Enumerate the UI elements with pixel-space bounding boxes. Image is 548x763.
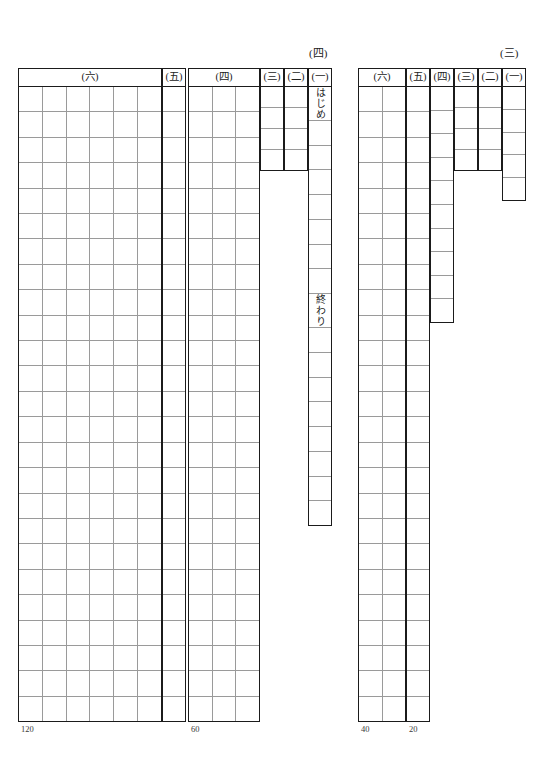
answer-cell[interactable] — [138, 697, 161, 721]
answer-cell[interactable] — [19, 366, 42, 391]
answer-cell[interactable] — [236, 265, 259, 290]
answer-cell[interactable] — [163, 189, 185, 214]
answer-cell[interactable] — [236, 697, 259, 721]
answer-cell[interactable] — [138, 341, 161, 366]
answer-cell[interactable] — [19, 697, 42, 721]
answer-cell[interactable] — [261, 108, 283, 129]
answer-group-g4-4[interactable]: (四) — [188, 68, 260, 722]
answer-cell[interactable] — [43, 468, 66, 493]
answer-cell[interactable] — [19, 519, 42, 544]
answer-cell[interactable] — [43, 341, 66, 366]
writing-column[interactable] — [89, 87, 113, 721]
answer-cell[interactable] — [189, 112, 212, 137]
answer-cell[interactable] — [138, 595, 161, 620]
answer-group-g3-6[interactable]: (六) — [358, 68, 406, 722]
answer-cell[interactable] — [138, 671, 161, 696]
answer-cell[interactable] — [90, 417, 113, 442]
answer-cell[interactable] — [407, 341, 429, 366]
answer-cell[interactable] — [19, 189, 42, 214]
answer-cell[interactable] — [138, 443, 161, 468]
answer-cell[interactable] — [163, 570, 185, 595]
answer-cell[interactable] — [19, 316, 42, 341]
answer-cell[interactable] — [407, 417, 429, 442]
answer-cell[interactable] — [19, 290, 42, 315]
answer-cell[interactable] — [114, 544, 137, 569]
answer-cell[interactable] — [163, 646, 185, 671]
answer-cell[interactable] — [431, 299, 453, 322]
answer-group-g4-2[interactable]: (二) — [284, 68, 308, 171]
answer-cell[interactable] — [189, 316, 212, 341]
answer-cell[interactable] — [261, 129, 283, 150]
answer-cell[interactable] — [359, 239, 382, 264]
answer-cell[interactable] — [90, 163, 113, 188]
answer-cell[interactable] — [90, 595, 113, 620]
answer-cell[interactable] — [236, 87, 259, 112]
answer-cell[interactable] — [407, 519, 429, 544]
answer-cell[interactable] — [43, 519, 66, 544]
answer-cell[interactable] — [19, 112, 42, 137]
answer-cell[interactable] — [19, 392, 42, 417]
answer-cell[interactable] — [189, 468, 212, 493]
answer-cell[interactable] — [359, 570, 382, 595]
answer-cell[interactable] — [213, 87, 236, 112]
answer-cell[interactable] — [43, 646, 66, 671]
answer-cell[interactable] — [19, 468, 42, 493]
writing-column[interactable] — [455, 87, 477, 170]
answer-cell[interactable] — [236, 519, 259, 544]
answer-cell[interactable] — [359, 366, 382, 391]
answer-cell[interactable] — [163, 290, 185, 315]
answer-cell[interactable] — [114, 341, 137, 366]
answer-cell[interactable] — [67, 316, 90, 341]
answer-cell[interactable] — [114, 214, 137, 239]
answer-cell[interactable] — [309, 477, 331, 502]
answer-cell[interactable] — [163, 519, 185, 544]
answer-cell[interactable] — [43, 138, 66, 163]
answer-cell[interactable] — [67, 189, 90, 214]
writing-column[interactable] — [479, 87, 501, 170]
answer-cell[interactable] — [383, 671, 406, 696]
answer-cell[interactable] — [431, 205, 453, 229]
answer-cell[interactable] — [213, 138, 236, 163]
answer-cell[interactable] — [43, 290, 66, 315]
answer-cell[interactable] — [236, 621, 259, 646]
answer-cell[interactable] — [43, 214, 66, 239]
answer-cell[interactable] — [479, 87, 501, 108]
answer-cell[interactable] — [114, 316, 137, 341]
answer-cell[interactable] — [189, 443, 212, 468]
answer-cell[interactable] — [67, 290, 90, 315]
answer-cell[interactable] — [431, 229, 453, 253]
answer-cell[interactable] — [189, 646, 212, 671]
answer-cell[interactable] — [138, 290, 161, 315]
answer-cell[interactable] — [359, 163, 382, 188]
answer-cell[interactable] — [236, 163, 259, 188]
answer-cell[interactable] — [407, 138, 429, 163]
answer-cell[interactable] — [189, 519, 212, 544]
answer-cell[interactable] — [189, 494, 212, 519]
answer-cell[interactable] — [189, 570, 212, 595]
answer-cell[interactable] — [359, 646, 382, 671]
answer-cell[interactable] — [359, 265, 382, 290]
answer-cell[interactable] — [138, 265, 161, 290]
answer-cell[interactable] — [455, 150, 477, 170]
answer-cell[interactable] — [90, 570, 113, 595]
answer-cell[interactable] — [431, 252, 453, 276]
answer-cell[interactable] — [213, 494, 236, 519]
answer-cell[interactable] — [236, 417, 259, 442]
answer-cell[interactable] — [163, 138, 185, 163]
answer-cell[interactable] — [90, 189, 113, 214]
answer-cell[interactable] — [43, 621, 66, 646]
answer-cell[interactable] — [213, 570, 236, 595]
answer-cell[interactable] — [383, 595, 406, 620]
answer-cell[interactable] — [67, 621, 90, 646]
answer-cell[interactable] — [359, 544, 382, 569]
answer-cell[interactable] — [383, 290, 406, 315]
answer-cell[interactable] — [67, 671, 90, 696]
answer-cell[interactable] — [359, 316, 382, 341]
answer-cell[interactable] — [189, 214, 212, 239]
answer-cell[interactable] — [479, 150, 501, 170]
answer-cell[interactable] — [67, 468, 90, 493]
answer-cell[interactable] — [43, 544, 66, 569]
answer-cell[interactable] — [189, 392, 212, 417]
answer-cell[interactable] — [236, 290, 259, 315]
answer-cell[interactable] — [503, 87, 525, 110]
